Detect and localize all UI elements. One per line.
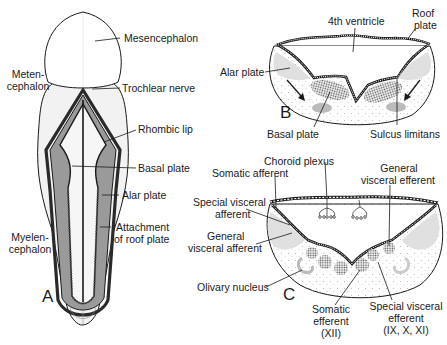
panel-letter-b: B [280,104,291,122]
label-somatic-afferent: Somatic afferent [212,167,288,179]
label-mesencephalon: Mesencephalon [124,32,198,44]
label-se-line3: (XII) [306,327,356,339]
label-myelencephalon-line2: cephalon [6,243,54,255]
svg-text:gf: gf [98,306,103,311]
label-roof-plate-line2: plate [414,19,437,31]
label-attachment-line2: of roof plate [114,233,169,245]
label-se-line1: Somatic [306,303,356,315]
panel-letter-a: A [42,288,53,306]
label-roof-plate-line1: Roof [412,7,434,19]
panel-letter-c: C [283,286,295,304]
label-alar-plate-b: Alar plate [220,66,264,78]
label-myelencephalon-line1: Myelen- [8,231,52,243]
panel-a-drawing: gf [38,12,129,325]
label-sve-line2: efferent [364,312,447,324]
label-sva-line2: afferent [215,208,250,220]
label-sulcus-limitans: Sulcus limitans [370,128,440,140]
label-gva-line2: visceral afferent [188,242,262,254]
label-gve-line2: visceral efferent [350,174,446,186]
label-metencephalon-line1: Meten- [8,68,48,80]
label-alar-plate-a: Alar plate [122,189,166,201]
label-metencephalon-line2: cephalon [5,80,51,92]
label-olivary-nucleus: Olivary nucleus [197,281,269,293]
label-rhombic-lip: Rhombic lip [138,123,193,135]
label-attachment-line1: Attachment [116,221,169,233]
label-sve-line3: (IX, X, XI) [364,324,447,336]
label-gva-line1: General [207,230,244,242]
label-basal-plate-a: Basal plate [138,162,190,174]
label-sva-line1: Special visceral [193,196,266,208]
panel-b-drawing [270,35,435,125]
panel-c-drawing [267,197,443,298]
label-fourth-ventricle: 4th ventricle [328,15,385,27]
label-gve-line1: General [364,162,434,174]
label-trochlear-nerve: Trochlear nerve [122,82,195,94]
label-sve-line1: Special visceral [364,300,447,312]
label-basal-plate-b: Basal plate [267,128,319,140]
label-se-line2: efferent [306,315,356,327]
label-choroid-plexus: Choroid plexus [264,155,334,167]
